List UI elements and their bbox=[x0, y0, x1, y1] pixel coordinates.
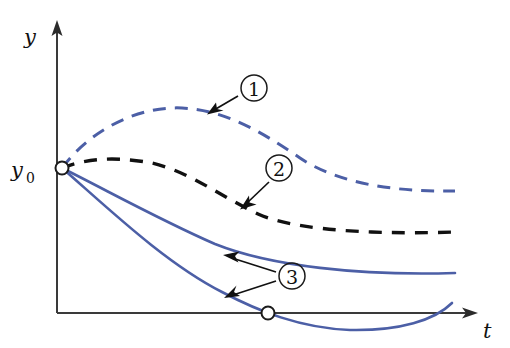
curve-1-blue-dashed bbox=[62, 108, 455, 191]
callout-1-pointer-line bbox=[214, 96, 238, 110]
initial-value-label-subscript: 0 bbox=[26, 170, 35, 186]
t-axis-crossing-marker bbox=[262, 307, 275, 320]
initial-value-label-main: y bbox=[10, 158, 24, 182]
curve-2-black-dashed bbox=[62, 159, 455, 233]
markers-group bbox=[56, 162, 275, 320]
t-axis-label: t bbox=[483, 319, 492, 343]
callout-3-pointer-arrowhead-upper bbox=[223, 252, 240, 263]
callout-2-group: 2 bbox=[240, 155, 292, 210]
initial-value-label: y 0 bbox=[10, 158, 35, 186]
callout-1-label: 1 bbox=[248, 78, 260, 100]
differential-equation-solution-curves-figure: y t y 0 1 2 3 bbox=[0, 0, 510, 348]
callout-3-label: 3 bbox=[286, 266, 298, 288]
figure-root: y t y 0 1 2 3 bbox=[0, 0, 510, 348]
callout-2-pointer-line bbox=[247, 182, 269, 203]
callout-3-pointer-arrowhead-lower bbox=[224, 286, 240, 299]
callout-2-label: 2 bbox=[273, 158, 285, 180]
callout-2-pointer-arrowhead bbox=[240, 196, 257, 210]
y-axis-label: y bbox=[23, 25, 37, 49]
callout-3-pointer-line-lower bbox=[233, 281, 276, 295]
curves-group bbox=[62, 108, 455, 330]
callout-1-group: 1 bbox=[207, 75, 267, 115]
initial-point-marker bbox=[56, 162, 69, 175]
callout-1-pointer-arrowhead bbox=[207, 103, 224, 115]
